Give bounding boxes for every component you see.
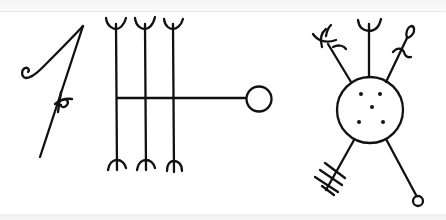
middle-stave-icon [106,17,272,172]
left-stave-icon [22,26,83,157]
right-stave-icon [313,19,423,206]
stave-drawing [0,0,446,220]
